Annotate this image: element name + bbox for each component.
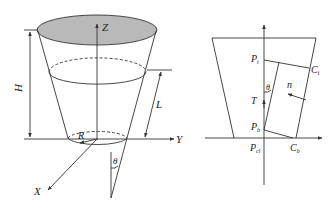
theta-arc (111, 166, 118, 168)
element-top-edge (264, 60, 309, 68)
radius-label: R (77, 130, 84, 141)
element-bottom-edge (264, 130, 293, 138)
c-top-label: Ct (311, 64, 320, 76)
normal-label: n (287, 79, 292, 90)
height-label: H (12, 83, 24, 93)
z-axis-label: Z (102, 21, 109, 33)
diagram-canvas: Z Y X H L R θ Pt Ct θ n T Pb Pcl Cb (0, 0, 334, 208)
p-origin-label: Pcl (249, 142, 261, 154)
x-axis (48, 139, 97, 190)
right-labels: Pt Ct θ n T Pb Pcl Cb (249, 53, 320, 154)
element-inner-slant (264, 62, 279, 130)
theta-label-right: θ (266, 83, 270, 92)
right-figure (205, 25, 322, 185)
left-figure (24, 15, 174, 198)
c-bottom-label: Cb (290, 142, 300, 154)
liquid-level-front (49, 72, 146, 84)
liquid-level-back (49, 58, 146, 72)
y-axis-label: Y (176, 133, 184, 145)
p-bottom-label: Pb (250, 121, 260, 133)
theta-label-left: θ (113, 156, 118, 166)
left-labels: Z Y X H L R θ (12, 21, 184, 197)
x-axis-label: X (33, 185, 42, 197)
length-label: L (155, 98, 162, 110)
p-top-label: Pt (250, 53, 259, 65)
normal-arrow (288, 94, 306, 100)
tension-label: T (251, 95, 258, 106)
bottom-ellipse-back (68, 131, 127, 138)
cone-left-side (38, 31, 68, 138)
cone-right-side (127, 31, 156, 138)
